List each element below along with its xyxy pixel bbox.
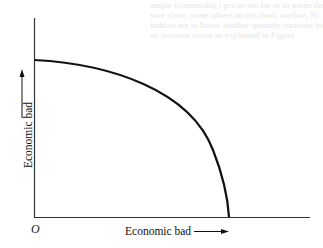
arrow-up-icon — [20, 69, 25, 77]
x-axis-label: Economic bad — [125, 225, 191, 237]
origin-label: O — [31, 222, 40, 237]
y-axis-label: Economic bad — [22, 80, 36, 190]
frontier-curve — [35, 60, 230, 217]
arrow-right-icon — [221, 229, 229, 234]
diagram-canvas — [0, 0, 323, 248]
